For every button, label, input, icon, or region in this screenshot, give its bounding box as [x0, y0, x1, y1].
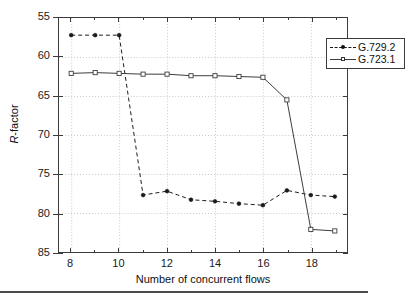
x-tick-mark [263, 248, 264, 253]
y-tick-label: 80 [14, 208, 50, 219]
y-tick-inner [58, 96, 63, 97]
x-minor-tick [191, 250, 192, 253]
y-tick-label: 75 [14, 168, 50, 179]
x-tick-top [118, 17, 119, 22]
y-tick-inner [58, 253, 63, 254]
y-tick-right [343, 135, 348, 136]
x-tick-top [215, 17, 216, 22]
x-tick-label: 14 [195, 258, 235, 269]
x-minor-tick-top [288, 17, 289, 20]
chart-legend: G.729.2 G.723.1 [326, 38, 405, 69]
y-tick-right [343, 17, 348, 18]
legend-entry-g7292: G.729.2 [330, 41, 401, 53]
y-tick-inner [58, 135, 63, 136]
legend-label-g7292: G.729.2 [356, 42, 395, 53]
x-tick-mark [167, 248, 168, 253]
x-tick-mark [312, 248, 313, 253]
x-axis-title: Number of concurrent flows [58, 273, 348, 285]
y-tick-right [343, 253, 348, 254]
x-minor-tick-top [336, 17, 337, 20]
x-tick-label: 16 [243, 258, 283, 269]
x-minor-tick-top [94, 17, 95, 20]
x-minor-tick-top [143, 17, 144, 20]
y-tick-label: 65 [14, 90, 50, 101]
x-tick-mark [70, 248, 71, 253]
x-tick-top [70, 17, 71, 22]
legend-marker-dashed-dot-icon [330, 42, 356, 53]
y-tick-label: 70 [14, 129, 50, 140]
x-tick-label: 12 [147, 258, 187, 269]
data-layer [59, 18, 347, 252]
x-tick-top [263, 17, 264, 22]
y-axis-title: R-factor [8, 69, 20, 179]
y-tick-inner [58, 174, 63, 175]
legend-entry-g7231: G.723.1 [330, 53, 401, 65]
x-minor-tick-top [239, 17, 240, 20]
bottom-rule [0, 291, 368, 293]
legend-marker-solid-square-icon [330, 54, 356, 65]
x-tick-label: 10 [98, 258, 138, 269]
x-minor-tick [239, 250, 240, 253]
y-tick-right [343, 214, 348, 215]
plot-area: G.729.2 G.723.1 [58, 17, 348, 253]
x-minor-tick [288, 250, 289, 253]
x-tick-top [312, 17, 313, 22]
x-tick-mark [118, 248, 119, 253]
y-tick-label: 85 [14, 247, 50, 258]
y-tick-right [343, 96, 348, 97]
y-tick-label: 60 [14, 50, 50, 61]
legend-label-g7231: G.723.1 [356, 54, 395, 65]
y-tick-inner [58, 214, 63, 215]
x-tick-label: 18 [292, 258, 332, 269]
y-tick-inner [58, 17, 63, 18]
x-minor-tick [94, 250, 95, 253]
y-tick-right [343, 174, 348, 175]
y-tick-inner [58, 56, 63, 57]
x-minor-tick [143, 250, 144, 253]
y-tick-label: 55 [14, 11, 50, 22]
x-tick-label: 8 [50, 258, 90, 269]
x-tick-mark [215, 248, 216, 253]
x-minor-tick-top [191, 17, 192, 20]
x-tick-top [167, 17, 168, 22]
x-minor-tick [336, 250, 337, 253]
